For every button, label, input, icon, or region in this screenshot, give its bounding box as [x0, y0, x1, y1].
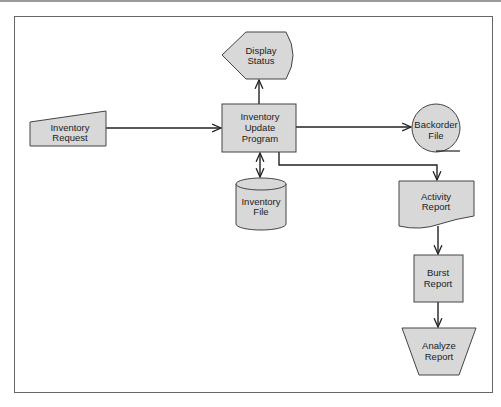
- node-activity-report: Activity Report: [399, 181, 474, 228]
- node-inventory-request: Inventory Request: [30, 111, 106, 146]
- node-burst-report: Burst Report: [414, 255, 463, 302]
- node-label: Burst: [427, 267, 450, 278]
- node-inventory-update-program: Inventory Update Program: [222, 104, 296, 152]
- node-label: Report: [425, 351, 454, 362]
- node-label: Request: [52, 132, 88, 143]
- node-label: Update: [245, 122, 276, 133]
- node-label: Report: [424, 278, 453, 289]
- edge-program-to-activity: [279, 152, 437, 180]
- node-display-status: Display Status: [222, 32, 293, 79]
- node-backorder-file: Backorder File: [412, 104, 460, 152]
- node-label: Backorder: [414, 119, 457, 130]
- flowchart: Display Status Inventory Request Invento…: [0, 0, 501, 407]
- node-label: Inventory: [240, 111, 279, 122]
- node-label: Status: [248, 55, 275, 66]
- node-label: Report: [422, 201, 451, 212]
- node-label: Analyze: [422, 340, 456, 351]
- node-inventory-file: Inventory File: [236, 178, 286, 230]
- node-analyze-report: Analyze Report: [402, 328, 476, 375]
- node-label: Program: [242, 133, 279, 144]
- node-label: File: [253, 206, 268, 217]
- node-label: File: [428, 130, 443, 141]
